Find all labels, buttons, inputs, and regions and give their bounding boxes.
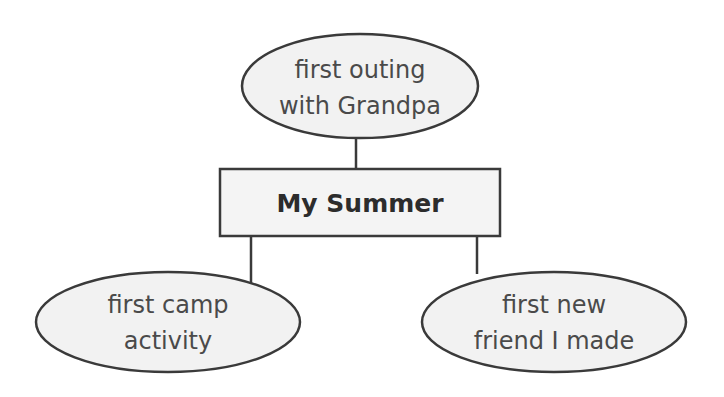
node-left-line-2: activity	[124, 327, 212, 355]
node-top-line-1: first outing	[295, 56, 426, 84]
concept-diagram: first outing with Grandpa My Summer firs…	[0, 0, 724, 397]
center-node-title: My Summer	[276, 189, 444, 218]
node-right-shape	[422, 272, 686, 372]
node-right-line-2: friend I made	[474, 327, 635, 355]
node-right: first new friend I made	[422, 272, 686, 372]
node-top-shape	[242, 34, 478, 138]
node-left-line-1: first camp	[107, 291, 228, 319]
node-left: first camp activity	[36, 272, 300, 372]
node-top-line-2: with Grandpa	[279, 92, 441, 120]
center-node: My Summer	[220, 169, 500, 236]
node-top: first outing with Grandpa	[242, 34, 478, 138]
node-left-shape	[36, 272, 300, 372]
node-right-line-1: first new	[502, 291, 606, 319]
